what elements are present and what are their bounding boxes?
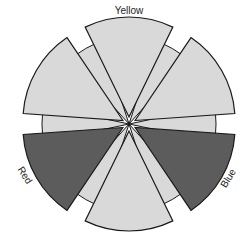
color-wheel-chart: Yellow Red Blue [0,0,249,236]
label-yellow: Yellow [115,5,144,16]
